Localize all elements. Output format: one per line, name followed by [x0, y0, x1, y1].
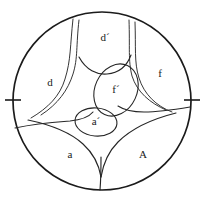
- disk-partition-diagram: d´ d f f´ a´ a A: [0, 0, 205, 203]
- figure-container: d´ d f f´ a´ a A: [0, 0, 205, 203]
- region-label-d: d: [47, 76, 53, 88]
- region-label-a: a: [68, 148, 73, 160]
- region-label-A: A: [139, 148, 147, 160]
- region-label-d-prime: d´: [100, 31, 110, 43]
- region-label-f: f: [158, 67, 162, 79]
- region-label-a-prime: a´: [92, 115, 101, 127]
- region-label-f-prime: f´: [112, 83, 120, 95]
